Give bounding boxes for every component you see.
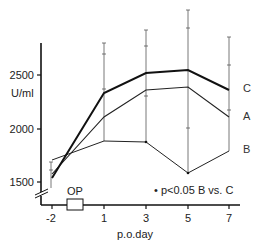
significance-marker-icon: [145, 141, 148, 144]
series-c-line: [52, 70, 229, 178]
series-a-label: A: [243, 110, 251, 122]
op-label: OP: [67, 185, 83, 197]
series-a-line: [52, 87, 229, 174]
x-tick-minus2: -2: [46, 212, 56, 224]
y-tick-2000: 2000: [10, 123, 34, 135]
x-tick-3: 3: [143, 212, 149, 224]
series-c-label: C: [243, 82, 251, 94]
x-tick-1: 1: [101, 212, 107, 224]
x-axis-label: p.o.day: [117, 228, 154, 240]
significance-note: • p<0.05 B vs. C: [154, 184, 233, 196]
significance-marker-icon: [187, 172, 190, 175]
y-axis-unit: U/ml: [11, 87, 34, 99]
x-tick-5: 5: [185, 212, 191, 224]
y-tick-1500: 1500: [10, 176, 34, 188]
series-b-line: [52, 141, 229, 173]
series-b-label: B: [243, 143, 250, 155]
x-tick-7: 7: [226, 212, 232, 224]
line-chart: 2500 U/ml 2000 1500 -2 1 3 5 7 p.o.day O…: [0, 0, 261, 246]
y-tick-2500: 2500: [10, 69, 34, 81]
op-box: [67, 199, 83, 210]
